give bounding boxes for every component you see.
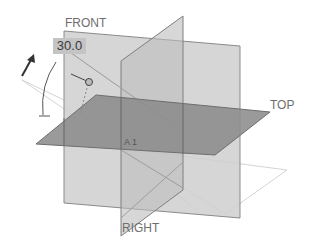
right-plane-label: RIGHT	[122, 222, 159, 234]
rotation-handle[interactable]	[86, 79, 93, 86]
rotation-arrow-icon[interactable]	[22, 54, 35, 76]
graphics-viewport[interactable]: FRONT TOP RIGHT 30.0 A 1	[0, 0, 314, 249]
angle-value-field[interactable]: 30.0	[53, 38, 86, 54]
front-plane-label: FRONT	[65, 17, 106, 29]
top-plane-label: TOP	[270, 99, 294, 111]
planes-drawing	[0, 0, 314, 249]
origin-label: A 1	[124, 137, 137, 147]
